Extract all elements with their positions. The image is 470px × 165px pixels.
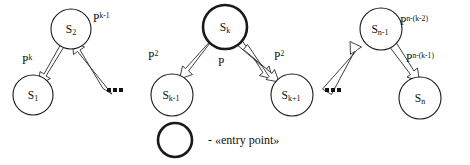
- legend: - «entry point»: [158, 123, 279, 157]
- ellipsis-left: [107, 88, 123, 92]
- node-sk[interactable]: Sk: [203, 5, 247, 49]
- node-s1[interactable]: S1: [13, 75, 53, 115]
- state-transition-diagram: S1 S2 Sk-1 Sk Sk+1 Sn-1 Sn Pk Pk-1: [0, 0, 470, 165]
- edge-label-p-squared-left: P2: [148, 49, 158, 63]
- node-sk-plus-1[interactable]: Sk+1: [271, 74, 313, 116]
- diagram-canvas: S1 S2 Sk-1 Sk Sk+1 Sn-1 Sn Pk Pk-1: [0, 0, 470, 165]
- node-sn[interactable]: Sn: [399, 77, 441, 119]
- edge-label-p-k: Pk: [22, 53, 32, 67]
- legend-entry-point-marker-icon: [158, 123, 192, 157]
- edge-label-p: P: [218, 56, 224, 68]
- legend-entry-point-label: - «entry point»: [208, 133, 279, 147]
- edge-label-p-n-k-1: Pn-(k-1): [406, 51, 434, 65]
- edge-label-p-k-minus-1: Pk-1: [93, 11, 110, 25]
- edge-s1-to-s2: [73, 42, 113, 95]
- node-sk-minus-1[interactable]: Sk-1: [151, 74, 193, 116]
- node-s2[interactable]: S2: [51, 9, 91, 49]
- ellipsis-right: [325, 88, 341, 92]
- edge-label-p-n-k-2: Pn-(k-2): [400, 14, 428, 28]
- node-sn-minus-1[interactable]: Sn-1: [360, 8, 402, 50]
- edge-sn-to-sn-minus-1: [323, 42, 362, 95]
- edge-sn-minus-1-to-sn: [389, 42, 420, 82]
- edge-label-p-squared-right: P2: [274, 49, 284, 63]
